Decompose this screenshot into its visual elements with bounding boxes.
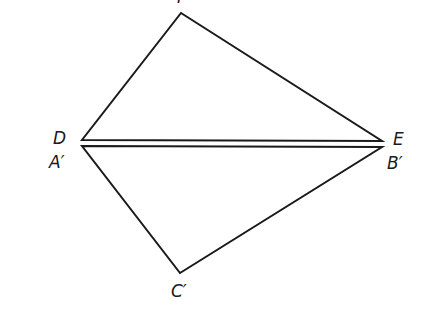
vertex-label-a-prime: A′ bbox=[49, 154, 65, 171]
triangle-def bbox=[82, 13, 382, 141]
vertex-label-b-prime: B′ bbox=[387, 155, 403, 172]
vertex-label-e: E bbox=[393, 131, 404, 148]
vertex-label-d: D bbox=[53, 130, 66, 147]
vertex-label-f: F bbox=[177, 0, 187, 6]
triangle-a-prime-b-prime-c-prime bbox=[82, 146, 382, 273]
vertex-label-c-prime: C′ bbox=[171, 283, 187, 300]
